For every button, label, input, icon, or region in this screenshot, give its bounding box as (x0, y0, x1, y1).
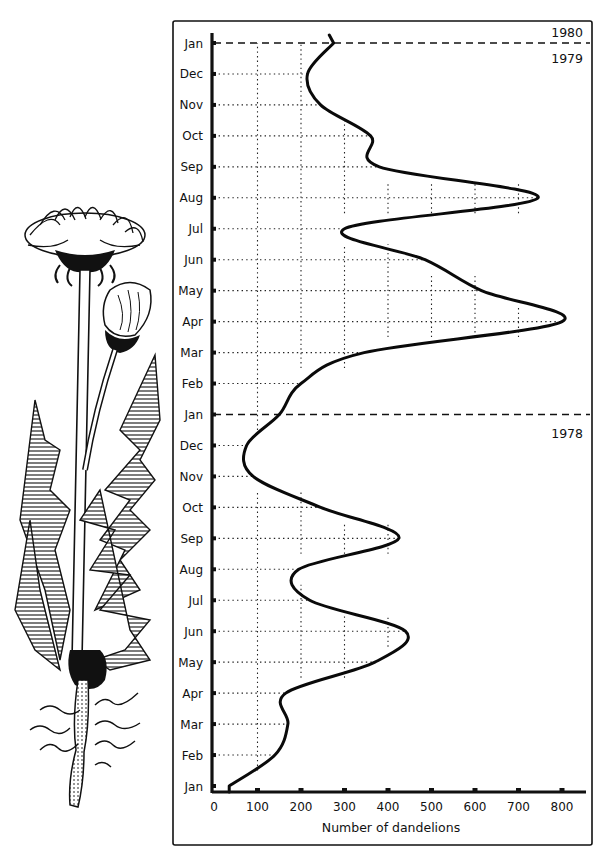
year-label-1980: 1980 (551, 25, 583, 40)
y-tick (211, 567, 216, 571)
y-tick-label: Mar (180, 718, 203, 732)
y-tick-label: Oct (182, 129, 203, 143)
y-tick (211, 41, 216, 45)
x-tick (429, 788, 434, 792)
x-tick-label: 300 (333, 800, 356, 814)
x-tick-label: 0 (210, 800, 218, 814)
y-tick-label: May (178, 284, 203, 298)
y-tick-label: Jun (183, 625, 203, 639)
y-tick-label: Feb (182, 749, 203, 763)
y-tick-label: May (178, 656, 203, 670)
x-tick (299, 788, 304, 792)
y-tick-label: Feb (182, 377, 203, 391)
y-tick (211, 660, 216, 664)
x-tick-label: 200 (290, 800, 313, 814)
y-tick-label: Aug (180, 563, 203, 577)
y-tick (211, 227, 216, 231)
y-tick (211, 474, 216, 478)
y-tick (211, 351, 216, 355)
year-label-1979: 1979 (551, 51, 583, 66)
y-tick (211, 443, 216, 447)
y-tick-label: Dec (180, 67, 203, 81)
dandelion-count-curve (229, 35, 565, 792)
y-tick-label: Jan (184, 37, 204, 51)
y-tick-label: Nov (180, 98, 203, 112)
y-tick-label: Sep (180, 160, 203, 174)
x-tick-label: 400 (377, 800, 400, 814)
y-tick-label: Nov (180, 470, 203, 484)
x-tick (473, 788, 478, 792)
y-tick-label: Apr (182, 315, 203, 329)
x-tick-label: 700 (507, 800, 530, 814)
y-tick (211, 165, 216, 169)
y-tick-label: Jul (188, 594, 203, 608)
chart-frame (173, 21, 592, 845)
x-axis-title: Number of dandelions (322, 820, 460, 835)
y-tick-label: Jan (184, 408, 204, 422)
y-tick (211, 536, 216, 540)
y-tick (211, 103, 216, 107)
y-tick-label: Mar (180, 346, 203, 360)
y-tick (211, 72, 216, 76)
y-tick (211, 784, 216, 788)
y-tick (211, 691, 216, 695)
y-tick (211, 134, 216, 138)
y-tick (211, 196, 216, 200)
y-tick-label: Dec (180, 439, 203, 453)
y-tick-label: Oct (182, 501, 203, 515)
year-label-1978: 1978 (551, 426, 583, 441)
y-tick-label: Aug (180, 191, 203, 205)
y-tick (211, 320, 216, 324)
y-tick (211, 753, 216, 757)
gridlines (214, 43, 562, 771)
y-tick-label: Sep (180, 532, 203, 546)
y-tick (211, 722, 216, 726)
y-tick-label: Apr (182, 687, 203, 701)
y-tick (211, 382, 216, 386)
x-tick-label: 600 (464, 800, 487, 814)
y-tick (211, 505, 216, 509)
x-tick-label: 800 (551, 800, 574, 814)
y-tick-label: Jun (183, 253, 203, 267)
x-tick (516, 788, 521, 792)
x-tick-label: 100 (246, 800, 269, 814)
y-tick-label: Jul (188, 222, 203, 236)
y-tick (211, 258, 216, 262)
y-tick (211, 598, 216, 602)
y-tick (211, 629, 216, 633)
y-tick (211, 413, 216, 417)
y-tick (211, 289, 216, 293)
y-axis-ticks: JanFebMarAprMayJunJulAugSepOctNovDecJanF… (178, 37, 216, 794)
x-tick-label: 500 (420, 800, 443, 814)
dandelion-count-chart: JanFebMarAprMayJunJulAugSepOctNovDecJanF… (0, 0, 609, 866)
x-tick (560, 788, 565, 792)
x-tick (386, 788, 391, 792)
x-tick (255, 788, 260, 792)
x-tick (342, 788, 347, 792)
y-tick-label: Jan (184, 780, 204, 794)
